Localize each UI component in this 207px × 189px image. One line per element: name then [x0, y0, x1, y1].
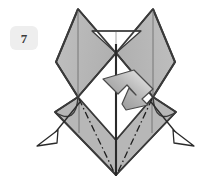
step-number-badge: 7	[10, 26, 38, 50]
left-pull-out-arrow-head	[37, 130, 58, 146]
right-pull-out-arrow-head	[173, 130, 194, 146]
step-number-label: 7	[21, 32, 28, 45]
origami-diagram-canvas: 7	[0, 0, 207, 189]
